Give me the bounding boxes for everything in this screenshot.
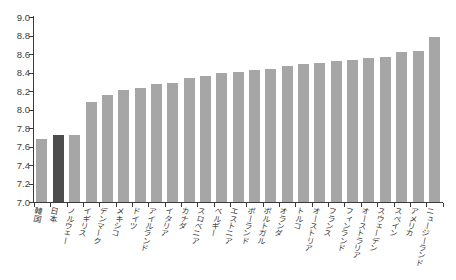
plot-area: 9.08.88.68.48.28.07.87.67.47.27.0 韓国日本ノル… <box>0 0 456 280</box>
bar <box>233 72 244 202</box>
y-tick-label: 8.6 <box>2 49 30 60</box>
category-label: フランス <box>321 206 337 237</box>
bar-highlighted-japan <box>53 135 64 202</box>
category-label: 韓国 <box>30 206 43 223</box>
bar <box>118 90 129 202</box>
x-axis-tick <box>443 203 444 207</box>
bar <box>298 64 309 202</box>
bar <box>86 102 97 202</box>
bar <box>135 88 146 202</box>
category-label: カナダ <box>176 206 190 230</box>
category-label: イタリア <box>158 206 174 237</box>
bar <box>429 37 440 202</box>
bar <box>200 76 211 202</box>
bar <box>216 73 227 203</box>
bar <box>249 70 260 202</box>
bar <box>69 135 80 202</box>
category-label: ポーランド <box>238 206 256 245</box>
category-label: デンマーク <box>91 206 109 245</box>
bar <box>347 60 358 202</box>
category-label: スペイン <box>387 206 403 237</box>
y-tick-label: 7.2 <box>2 178 30 189</box>
bar <box>167 83 178 202</box>
bar <box>282 66 293 202</box>
bar <box>314 63 325 202</box>
category-label: エストニア <box>221 206 239 245</box>
y-tick-label: 8.8 <box>2 30 30 41</box>
y-tick-label: 9.0 <box>2 12 30 23</box>
bar <box>102 95 113 202</box>
bar <box>363 58 374 202</box>
category-label: スウェーデン <box>367 206 386 252</box>
bar-chart-figure: 9.08.88.68.48.28.07.87.67.47.27.0 韓国日本ノル… <box>0 0 456 280</box>
category-label: オーストリア <box>302 206 321 252</box>
category-label: ポルトガル <box>254 206 272 245</box>
category-label: ノルウェー <box>58 206 76 245</box>
y-tick-label: 7.0 <box>2 197 30 208</box>
y-tick-label: 8.4 <box>2 67 30 78</box>
category-label: アメリカ <box>403 206 419 237</box>
y-tick-label: 7.6 <box>2 141 30 152</box>
category-label: メキシコ <box>109 206 125 237</box>
x-axis-line <box>33 202 443 203</box>
category-label: トルコ <box>290 206 304 230</box>
bar <box>380 57 391 202</box>
y-tick-label: 8.0 <box>2 104 30 115</box>
bar <box>151 84 162 202</box>
category-label: アイルランド <box>138 206 157 252</box>
category-label: スロベニア <box>189 206 207 245</box>
bar <box>265 69 276 202</box>
bar <box>36 139 47 202</box>
y-tick-label: 7.4 <box>2 160 30 171</box>
y-tick-label: 8.2 <box>2 86 30 97</box>
category-label: ベルギー <box>207 206 223 237</box>
category-label: オランダ <box>272 206 288 237</box>
bar <box>331 61 342 202</box>
y-tick-label: 7.8 <box>2 123 30 134</box>
bar <box>396 52 407 202</box>
bar <box>184 78 195 202</box>
category-label: ドイツ <box>126 206 140 230</box>
category-label: イギリス <box>76 206 92 237</box>
category-label: 日本 <box>46 206 59 223</box>
bar <box>413 51 424 202</box>
